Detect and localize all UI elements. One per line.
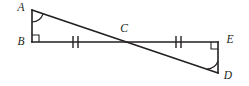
right-angle-E [211,42,218,49]
vertex-label-B: B [17,35,24,47]
vertex-label-D: D [223,69,233,81]
angle-arc-D [207,61,218,69]
angle-arc-A [32,14,43,22]
vertex-label-C: C [120,22,128,34]
vertex-label-A: A [16,1,25,13]
geometry-canvas: A B C E D [0,0,249,86]
geometry-figure: A B C E D [0,0,249,86]
vertex-label-E: E [225,33,233,45]
right-angle-B [32,35,39,42]
